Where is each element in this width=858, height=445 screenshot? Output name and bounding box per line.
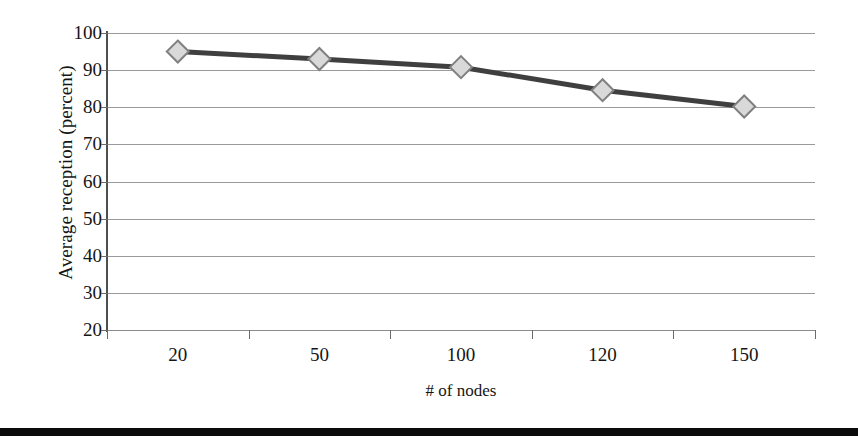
gridline-70 [107, 144, 815, 145]
y-tick-label-80: 80 [58, 97, 102, 116]
gridline-30 [107, 293, 815, 294]
gridline-60 [107, 182, 815, 183]
y-tickmark-90 [101, 70, 108, 71]
x-tick-label-150: 150 [684, 345, 804, 364]
x-tick-label-20: 20 [118, 345, 238, 364]
y-tick-label-20: 20 [58, 320, 102, 339]
y-tickmark-60 [101, 182, 108, 183]
y-tick-label-100: 100 [58, 23, 102, 42]
y-tickmark-70 [101, 144, 108, 145]
y-axis-tick-labels: 2030405060708090100 [52, 33, 102, 330]
y-tickmark-50 [101, 219, 108, 220]
y-tick-label-50: 50 [58, 209, 102, 228]
x-tickmark-2 [390, 330, 391, 339]
y-tick-label-70: 70 [58, 134, 102, 153]
gridline-20 [107, 330, 815, 331]
x-tick-label-100: 100 [401, 345, 521, 364]
x-axis-tick-labels: 2050100120150 [107, 345, 815, 371]
y-tick-label-90: 90 [58, 60, 102, 79]
gridline-50 [107, 219, 815, 220]
x-tick-label-120: 120 [543, 345, 663, 364]
y-tickmark-100 [101, 33, 108, 34]
x-tickmark-5 [815, 330, 816, 339]
x-tickmark-0 [107, 330, 108, 339]
y-tick-label-60: 60 [58, 172, 102, 191]
x-tickmark-3 [532, 330, 533, 339]
plot-area [107, 33, 815, 330]
chart-figure: Average reception (percent) 203040506070… [0, 0, 858, 445]
y-tickmark-30 [101, 293, 108, 294]
x-tickmark-4 [673, 330, 674, 339]
gridline-40 [107, 256, 815, 257]
gridline-100 [107, 33, 815, 34]
gridline-80 [107, 107, 815, 108]
x-axis-title: # of nodes [107, 381, 815, 401]
gridline-90 [107, 70, 815, 71]
bottom-rule-divider [0, 428, 858, 436]
x-tickmark-1 [249, 330, 250, 339]
y-tickmark-40 [101, 256, 108, 257]
y-tick-label-40: 40 [58, 246, 102, 265]
y-tickmark-80 [101, 107, 108, 108]
y-tick-label-30: 30 [58, 283, 102, 302]
x-tick-label-50: 50 [259, 345, 379, 364]
